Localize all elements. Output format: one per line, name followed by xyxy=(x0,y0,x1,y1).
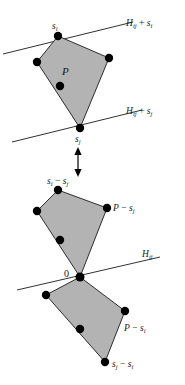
polytope-p xyxy=(37,36,109,128)
label-vertex-si: si xyxy=(52,21,58,32)
vertex-dot-sj-minus-si xyxy=(101,358,109,366)
vertex-dot-si-minus-sj xyxy=(54,186,62,194)
double-headed-vertical-arrow-icon xyxy=(74,147,81,177)
vertex-dot-upper-left xyxy=(33,207,41,215)
label-polytope-p: P xyxy=(61,65,69,77)
vertex-dot-right xyxy=(105,54,113,62)
vertex-dot-sj xyxy=(76,124,84,132)
label-p-minus-si: P − si xyxy=(123,323,146,334)
label-si-minus-sj: si − sj xyxy=(47,176,68,187)
label-sj-minus-si: sj − si xyxy=(112,359,133,370)
label-hyperplane-lower: Hij + sj xyxy=(125,106,152,117)
difference-body-p-minus-sj xyxy=(37,190,107,277)
interior-dot-lower-body xyxy=(76,325,84,333)
figure-container: si P sj Hij + si Hij + sj xyxy=(0,0,185,385)
label-p-minus-sj: P − sj xyxy=(112,203,135,214)
geometry-diagram: si P sj Hij + si Hij + sj xyxy=(0,0,185,385)
vertex-dot-si xyxy=(54,32,62,40)
vertex-dot-lower-left xyxy=(42,291,50,299)
lower-panel: si − sj P − sj Hij 0 P − si sj − si xyxy=(17,176,160,370)
label-vertex-sj: sj xyxy=(75,134,81,145)
interior-dot-upper-body xyxy=(56,236,64,244)
vertex-dot-left xyxy=(33,58,41,66)
label-hyperplane-hij: Hij xyxy=(141,249,153,260)
label-hyperplane-upper: Hij + si xyxy=(125,18,152,29)
vertex-dot-origin xyxy=(76,273,85,282)
vertex-dot-upper-right xyxy=(103,204,111,212)
difference-body-p-minus-si xyxy=(46,277,125,362)
upper-panel: si P sj Hij + si Hij + sj xyxy=(3,18,152,145)
label-origin: 0 xyxy=(64,268,69,279)
interior-dot xyxy=(56,82,64,90)
vertex-dot-lower-right xyxy=(121,307,129,315)
